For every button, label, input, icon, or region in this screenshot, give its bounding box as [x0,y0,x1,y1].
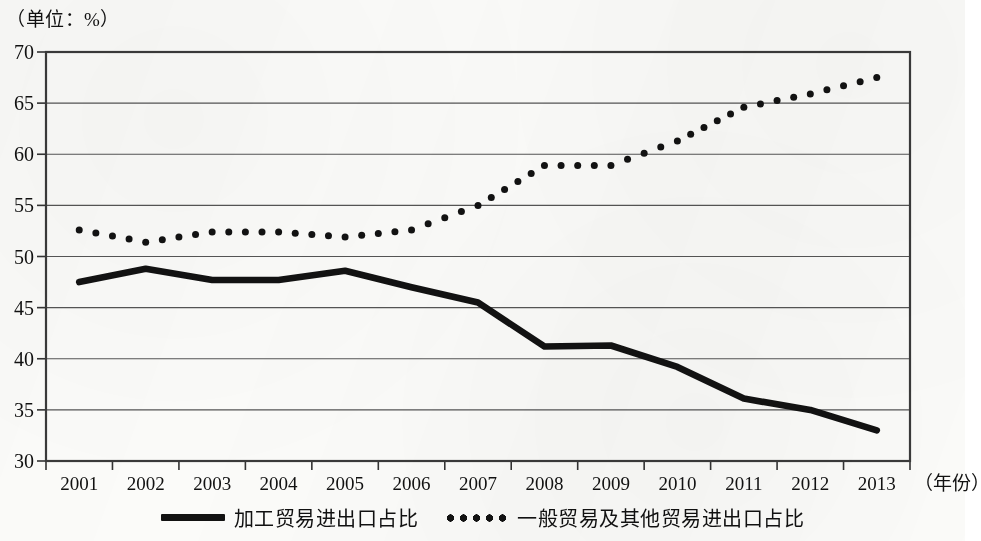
x-axis-title: （年份） [914,474,981,493]
y-axis-tick-label: 30 [0,451,34,471]
chart-legend: 加工贸易进出口占比 一般贸易及其他贸易进出口占比 [0,503,965,532]
y-axis-tick-label: 70 [0,42,34,62]
series-dotted-general-trade [76,74,881,246]
y-axis-tick-label: 55 [0,195,34,215]
x-axis-ticks [46,461,910,470]
series-layer [76,74,881,430]
y-axis-tick-label: 50 [0,247,34,267]
legend-label-processing-trade: 加工贸易进出口占比 [234,503,419,532]
series-line-processing-trade [79,269,877,431]
y-axis-tick-label: 60 [0,144,34,164]
y-axis-tick-label: 65 [0,93,34,113]
legend-label-general-trade: 一般贸易及其他贸易进出口占比 [517,503,804,532]
legend-swatch-dotted-line-icon [444,514,508,522]
gridlines [37,52,910,461]
legend-swatch-solid-line-icon [161,514,225,521]
y-axis-tick-label: 40 [0,349,34,369]
x-axis-tick-label: 2013 [837,474,917,493]
legend-item-processing-trade: 加工贸易进出口占比 [161,503,419,532]
y-axis-tick-label: 45 [0,298,34,318]
legend-item-general-trade: 一般贸易及其他贸易进出口占比 [444,503,804,532]
y-axis-tick-label: 35 [0,400,34,420]
